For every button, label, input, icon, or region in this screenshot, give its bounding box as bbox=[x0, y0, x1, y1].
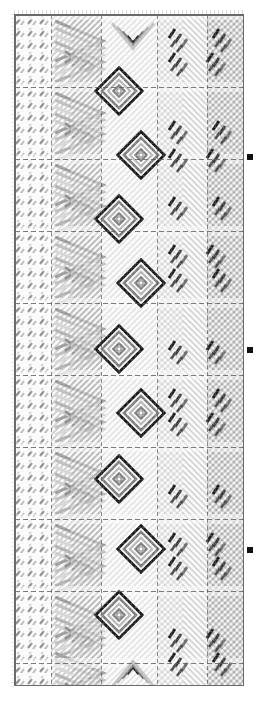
edge-marker[interactable] bbox=[247, 154, 253, 160]
dash-cluster bbox=[169, 245, 187, 268]
chevron-band bbox=[55, 597, 103, 665]
edge-marker[interactable] bbox=[247, 347, 253, 353]
dash-cluster bbox=[207, 533, 225, 556]
section-breather-row bbox=[15, 226, 244, 236]
chevron-band bbox=[55, 21, 103, 89]
paper-background bbox=[15, 15, 244, 686]
edge-marker[interactable] bbox=[247, 547, 253, 553]
chevron-band bbox=[55, 525, 103, 593]
chevron-band bbox=[55, 309, 103, 377]
field-dash-column bbox=[157, 15, 207, 686]
fine-grid-overlay bbox=[15, 15, 244, 686]
pattern-chart-root bbox=[0, 0, 260, 702]
dash-cluster bbox=[213, 269, 231, 292]
diamond-medallion bbox=[118, 390, 164, 436]
section-breather-row bbox=[15, 298, 244, 308]
dash-cluster bbox=[213, 557, 231, 580]
dash-cluster bbox=[169, 629, 187, 652]
texture-blocks bbox=[71, 15, 244, 686]
diamond-medallion bbox=[118, 260, 164, 306]
chevron-band bbox=[55, 381, 103, 449]
field-chevron bbox=[51, 15, 101, 686]
dash-cluster bbox=[213, 29, 231, 52]
dash-cluster-group bbox=[169, 29, 231, 676]
chevron-band bbox=[55, 653, 103, 686]
pattern-canvas bbox=[15, 15, 244, 686]
field-diamond-column bbox=[101, 15, 157, 686]
dash-cluster bbox=[169, 53, 187, 76]
apex-chevron bbox=[112, 23, 154, 48]
diamond-medallion bbox=[118, 526, 164, 572]
dash-cluster bbox=[213, 389, 231, 412]
dash-cluster bbox=[169, 485, 187, 508]
diamond-motif-group bbox=[96, 68, 164, 638]
chevron-band bbox=[55, 93, 103, 161]
section-breather-row bbox=[15, 154, 244, 164]
diamond-medallion bbox=[96, 456, 142, 502]
dash-cluster bbox=[213, 485, 231, 508]
apex-chevron-group bbox=[112, 23, 154, 686]
dash-cluster bbox=[213, 121, 231, 144]
section-breather-row bbox=[15, 658, 244, 668]
section-breather-row bbox=[15, 370, 244, 380]
dash-cluster bbox=[207, 149, 225, 172]
dash-cluster bbox=[169, 197, 187, 220]
section-breather-row bbox=[15, 586, 244, 596]
dash-cluster bbox=[169, 413, 187, 436]
dash-cluster bbox=[213, 653, 231, 676]
section-breather-row bbox=[15, 514, 244, 524]
diamond-medallion bbox=[96, 592, 142, 638]
diamond-medallion bbox=[96, 326, 142, 372]
dash-cluster bbox=[169, 341, 187, 364]
section-breather-row bbox=[15, 15, 244, 20]
chevron-band bbox=[55, 237, 103, 305]
dash-cluster bbox=[169, 269, 187, 292]
dash-cluster bbox=[169, 121, 187, 144]
section-breather-row bbox=[15, 442, 244, 452]
chart-drawing-frame bbox=[14, 14, 244, 686]
top-margin-ruler bbox=[0, 0, 260, 14]
dash-cluster bbox=[207, 53, 225, 76]
dash-cluster bbox=[169, 533, 187, 556]
dash-cluster bbox=[169, 149, 187, 172]
field-left-border bbox=[15, 15, 51, 686]
dash-cluster bbox=[213, 197, 231, 220]
chevron-band bbox=[55, 453, 103, 521]
dash-cluster bbox=[169, 653, 187, 676]
diamond-medallion bbox=[96, 196, 142, 242]
dash-cluster bbox=[207, 245, 225, 268]
diamond-medallion bbox=[118, 132, 164, 178]
apex-chevron bbox=[112, 662, 154, 686]
section-breather-row bbox=[15, 82, 244, 92]
field-right-twill bbox=[207, 15, 244, 686]
dash-cluster bbox=[169, 29, 187, 52]
dash-cluster bbox=[169, 389, 187, 412]
dash-cluster bbox=[169, 557, 187, 580]
dash-cluster bbox=[207, 629, 225, 652]
section-rule-group bbox=[15, 15, 244, 686]
diamond-medallion bbox=[96, 68, 142, 114]
chart-border bbox=[16, 16, 245, 687]
left-margin-ruler bbox=[0, 0, 14, 702]
chevron-motif-group bbox=[55, 21, 103, 686]
section-breather-rows bbox=[15, 15, 244, 668]
chevron-band bbox=[55, 165, 103, 233]
dash-cluster bbox=[207, 341, 225, 364]
dash-cluster bbox=[207, 413, 225, 436]
